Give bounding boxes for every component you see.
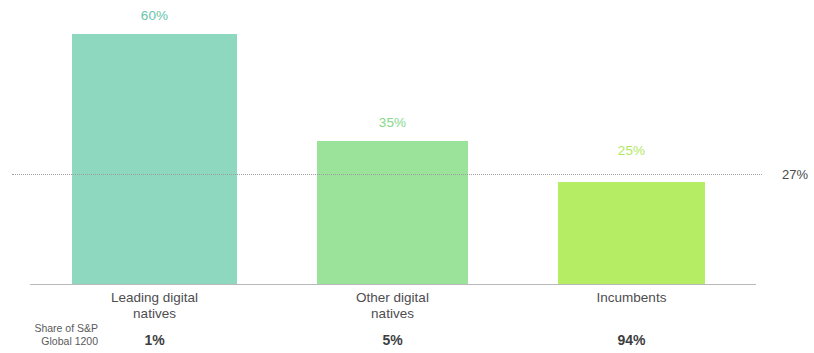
category-label-leading-digital-natives: Leading digital natives — [72, 290, 237, 322]
bar-value-label-2: 25% — [558, 143, 705, 158]
reference-line-label: 27% — [782, 167, 808, 182]
category-label-other-digital-natives: Other digital natives — [317, 290, 468, 322]
plot-area: 60% 35% 25% 27% — [0, 0, 814, 285]
x-axis-line — [30, 284, 756, 285]
bar-chart: 60% 35% 25% 27% Leading digital natives … — [0, 0, 814, 353]
reference-line — [12, 174, 762, 175]
secondary-row-value-leading-digital-natives: 1% — [72, 332, 237, 348]
bar-leading-digital-natives[interactable] — [72, 34, 237, 285]
secondary-row-value-other-digital-natives: 5% — [317, 332, 468, 348]
bar-other-digital-natives[interactable] — [317, 141, 468, 285]
bar-value-label-0: 60% — [72, 8, 237, 23]
bar-value-label-1: 35% — [317, 115, 468, 130]
secondary-row-value-incumbents: 94% — [558, 332, 705, 348]
category-label-incumbents: Incumbents — [558, 290, 705, 306]
bar-incumbents[interactable] — [558, 182, 705, 285]
